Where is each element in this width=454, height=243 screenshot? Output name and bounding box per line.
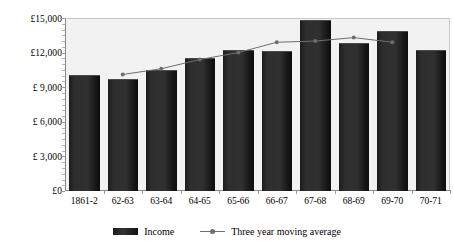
legend-line-swatch-icon <box>200 228 225 235</box>
legend-bar-swatch-icon <box>113 228 138 235</box>
x-axis-label-63-64: 63-64 <box>142 195 181 207</box>
y-axis-label-0: £0 <box>4 186 62 196</box>
moving-average-marker-64-65 <box>198 58 202 62</box>
moving-average-marker-68-69 <box>352 36 356 40</box>
y-axis-label-3000: £ 3,000 <box>4 152 62 162</box>
x-axis-label-65-66: 65-66 <box>219 195 258 207</box>
x-axis-tick <box>335 191 336 194</box>
x-axis-tick <box>142 191 143 194</box>
x-axis-tick <box>258 191 259 194</box>
x-axis-label-69-70: 69-70 <box>373 195 412 207</box>
x-axis-tick <box>450 191 451 194</box>
legend-label-income: Income <box>144 226 174 237</box>
x-axis-label-68-69: 68-69 <box>335 195 374 207</box>
y-axis-label-9000: £ 9,000 <box>4 83 62 93</box>
x-axis-tick <box>296 191 297 194</box>
chart-legend: Income Three year moving average <box>0 222 454 240</box>
x-axis-tick <box>412 191 413 194</box>
legend-label-moving-average: Three year moving average <box>231 226 341 237</box>
y-axis-major-tick <box>61 191 65 192</box>
moving-average-marker-65-66 <box>236 51 240 55</box>
x-axis-tick <box>219 191 220 194</box>
x-axis-label-62-63: 62-63 <box>104 195 143 207</box>
x-axis-label-64-65: 64-65 <box>181 195 220 207</box>
y-axis-label-15000: £15,000 <box>4 14 62 24</box>
moving-average-marker-62-63 <box>121 73 125 77</box>
y-axis-label-6000: £ 6,000 <box>4 117 62 127</box>
legend-item-income: Income <box>113 226 174 237</box>
x-axis-label-67-68: 67-68 <box>296 195 335 207</box>
x-axis-label-66-67: 66-67 <box>258 195 297 207</box>
y-axis-label-12000: £12,000 <box>4 48 62 58</box>
y-axis: £15,000 £12,000 £ 9,000 £ 6,000 £ 3,000 … <box>0 0 62 243</box>
moving-average-marker-67-68 <box>313 39 317 43</box>
x-axis-tick <box>181 191 182 194</box>
income-bar-chart: £15,000 £12,000 £ 9,000 £ 6,000 £ 3,000 … <box>0 0 454 243</box>
moving-average-marker-69-70 <box>390 40 394 44</box>
legend-item-moving-average: Three year moving average <box>200 226 341 237</box>
moving-average-marker-66-67 <box>275 40 279 44</box>
moving-average-marker-63-64 <box>159 67 163 71</box>
x-axis-tick <box>373 191 374 194</box>
x-axis-tick <box>104 191 105 194</box>
line-series-three-year-moving-average <box>65 18 450 191</box>
x-axis-label-1861-2: 1861-2 <box>65 195 104 207</box>
x-axis: 1861-262-6363-6464-6565-6666-6767-6868-6… <box>65 195 450 211</box>
x-axis-label-70-71: 70-71 <box>412 195 451 207</box>
